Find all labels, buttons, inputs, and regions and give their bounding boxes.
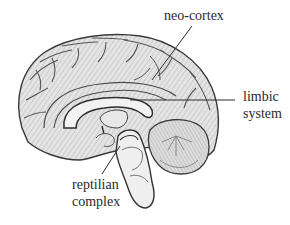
brain-diagram: neo-cortex limbic system reptilian compl… xyxy=(0,0,290,225)
label-reptilian-line2: complex xyxy=(72,193,120,210)
label-limbic-line1: limbic xyxy=(243,88,282,105)
label-limbic-system: limbic system xyxy=(243,88,282,122)
label-limbic-line2: system xyxy=(243,105,282,122)
cerebellum xyxy=(149,120,210,174)
label-reptilian-complex: reptilian complex xyxy=(72,176,120,210)
label-reptilian-line1: reptilian xyxy=(72,176,120,193)
label-neo-cortex: neo-cortex xyxy=(164,7,224,24)
label-neo-cortex-text: neo-cortex xyxy=(164,7,224,24)
